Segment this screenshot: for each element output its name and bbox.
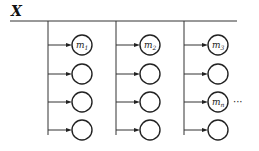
branch: m3 (184, 35, 228, 55)
branch (116, 120, 160, 140)
arrowhead-icon (66, 72, 72, 76)
branch (116, 64, 160, 84)
node-label-subscript: 2 (152, 44, 157, 51)
columns-group: m1m2m3mn··· (48, 21, 243, 140)
node-circle (208, 64, 228, 84)
arrowhead-icon (134, 100, 140, 104)
node-circle (208, 120, 228, 140)
arrowhead-icon (202, 72, 208, 76)
arrowhead-icon (134, 128, 140, 132)
branch (48, 64, 92, 84)
node-circle (140, 120, 160, 140)
arrowhead-icon (66, 43, 72, 47)
node-circle (140, 64, 160, 84)
branch: m2 (116, 35, 160, 55)
arrowhead-icon (66, 100, 72, 104)
node-circle (72, 64, 92, 84)
node-circle (72, 120, 92, 140)
arrowhead-icon (202, 128, 208, 132)
node-label-subscript: 1 (85, 44, 89, 51)
branch (184, 64, 228, 84)
arrowhead-icon (66, 128, 72, 132)
branch (184, 120, 228, 140)
branch: mn (184, 92, 228, 112)
branch (116, 92, 160, 112)
hierarchy-diagram: X m1m2m3mn··· (0, 0, 259, 151)
column-1: m1 (48, 21, 92, 140)
diagram-title: X (10, 3, 23, 19)
column-3: m3mn (184, 21, 228, 140)
node-label-subscript: n (221, 101, 225, 108)
arrowhead-icon (134, 72, 140, 76)
node-circle (140, 92, 160, 112)
continuation-ellipsis: ··· (233, 96, 243, 107)
column-2: m2 (116, 21, 160, 140)
node-circle (72, 92, 92, 112)
branch (48, 92, 92, 112)
arrowhead-icon (134, 43, 140, 47)
arrowhead-icon (202, 100, 208, 104)
branch (48, 120, 92, 140)
node-label-subscript: 3 (221, 44, 225, 51)
arrowhead-icon (202, 43, 208, 47)
branch: m1 (48, 35, 92, 55)
